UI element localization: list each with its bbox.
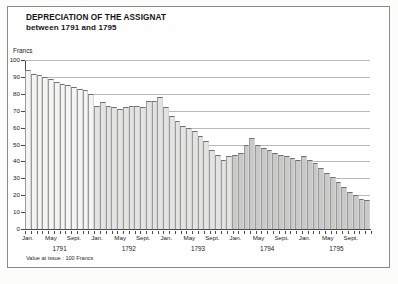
x-axis-tick	[181, 231, 182, 234]
y-axis-tick-label: 20	[13, 191, 20, 198]
y-axis-label: Francs	[13, 47, 33, 54]
x-axis-month-label: Sept.	[344, 234, 358, 241]
x-axis-month-label: May	[253, 234, 265, 241]
x-axis-tick	[359, 231, 360, 234]
y-axis-tick-label: 100	[10, 56, 20, 63]
chart-title: DEPRECIATION OF THE ASSIGNAT between 179…	[26, 13, 166, 32]
y-axis-tick-label: 0	[17, 225, 20, 232]
x-axis-tick	[106, 231, 107, 234]
bar-series	[25, 60, 370, 229]
x-axis-month-label: Sept.	[67, 234, 81, 241]
y-axis-tick-label: 60	[13, 124, 20, 131]
x-axis-tick	[221, 231, 222, 234]
chart-page: DEPRECIATION OF THE ASSIGNAT between 179…	[0, 0, 398, 284]
x-axis-line	[25, 229, 371, 230]
x-axis-tick	[267, 231, 268, 234]
x-axis-month-label: Sept.	[274, 234, 288, 241]
x-axis-month-label: May	[183, 234, 195, 241]
chart-footnote: Value at issue : 100 Francs	[26, 255, 93, 261]
x-axis-tick	[42, 231, 43, 234]
x-axis-tick	[319, 231, 320, 234]
x-axis-tick	[244, 231, 245, 234]
x-axis-month-label: Sept.	[136, 234, 150, 241]
chart-title-line2: between 1791 and 1795	[26, 23, 166, 33]
x-axis-tick	[129, 231, 130, 234]
y-axis-tick-label: 70	[13, 107, 20, 114]
chart-title-line1: DEPRECIATION OF THE ASSIGNAT	[26, 13, 166, 23]
y-axis-tick-label: 50	[13, 141, 20, 148]
x-axis-tick	[296, 231, 297, 234]
x-axis-month-label: Jan.	[299, 234, 311, 241]
x-axis-tick	[227, 231, 228, 234]
x-axis-tick	[313, 231, 314, 234]
x-axis-tick	[371, 231, 372, 234]
y-axis-tick-label: 30	[13, 174, 20, 181]
x-axis-tick	[83, 231, 84, 234]
x-axis-tick	[175, 231, 176, 234]
x-axis-tick	[158, 231, 159, 234]
x-axis-month-label: May	[45, 234, 57, 241]
y-axis-tick-label: 90	[13, 73, 20, 80]
x-axis-tick	[250, 231, 251, 234]
x-axis-tick	[152, 231, 153, 234]
y-axis-tick-label: 80	[13, 90, 20, 97]
x-axis-tick	[112, 231, 113, 234]
x-axis-month-label: May	[114, 234, 126, 241]
x-axis-tick	[290, 231, 291, 234]
x-axis-tick	[336, 231, 337, 234]
x-axis-month-label: Jan.	[230, 234, 242, 241]
x-axis-month-label: Jan.	[91, 234, 103, 241]
plot-area: 1009080706050403020100	[25, 60, 370, 229]
x-axis-tick	[198, 231, 199, 234]
x-axis-year-label: 1795	[329, 245, 343, 252]
x-axis-tick	[88, 231, 89, 234]
x-axis-month-label: May	[322, 234, 334, 241]
bar	[364, 200, 370, 229]
x-axis-month-label: Sept.	[205, 234, 219, 241]
x-axis-tick	[37, 231, 38, 234]
x-axis-tick	[60, 231, 61, 234]
x-axis-month-label: Jan.	[22, 234, 34, 241]
x-axis-tick	[365, 231, 366, 234]
y-axis-tick-label: 10	[13, 208, 20, 215]
y-axis-tick	[21, 229, 25, 230]
x-axis-year-label: 1793	[191, 245, 205, 252]
y-axis-tick-label: 40	[13, 157, 20, 164]
x-axis-year-label: 1794	[260, 245, 274, 252]
x-axis-year-label: 1791	[52, 245, 66, 252]
x-axis-year-label: 1792	[122, 245, 136, 252]
x-axis-month-label: Jan.	[160, 234, 172, 241]
